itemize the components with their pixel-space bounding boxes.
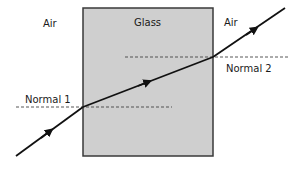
refraction-diagram: Air Glass Air Normal 1 Normal 2 (0, 0, 295, 169)
emergent-arrow-icon (246, 29, 255, 35)
label-air-right: Air (224, 17, 238, 28)
incident-arrow-icon (41, 131, 50, 138)
label-air-left: Air (43, 18, 57, 29)
label-normal-2: Normal 2 (226, 63, 272, 74)
label-normal-1: Normal 1 (25, 94, 71, 105)
label-glass: Glass (134, 17, 161, 28)
